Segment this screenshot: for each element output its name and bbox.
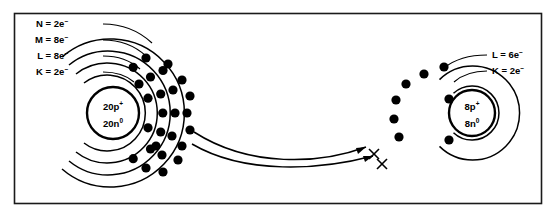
transfer-arrow-1-path	[192, 144, 373, 167]
electron-dot	[177, 141, 186, 150]
leader-line-K-right	[454, 71, 487, 82]
x-mark	[377, 159, 387, 169]
oxygen-nucleus: 8p+ 8n0	[449, 90, 495, 136]
calcium-atom: N = 2e– M = 8e– L = 8e– K = 2e– 20p+ 20n…	[35, 17, 195, 187]
calcium-leader-lines	[103, 24, 152, 82]
electron-dot	[156, 89, 165, 98]
oxygen-shell-labels: L = 6e– K = 2e–	[492, 48, 524, 76]
electron-dot	[134, 79, 143, 88]
electron-dot	[146, 72, 155, 81]
electron-dot	[173, 155, 182, 164]
electron-dot	[168, 85, 177, 94]
electron-dot	[389, 114, 398, 123]
transfer-arrow-2-head	[356, 147, 366, 154]
electron-dot	[129, 63, 138, 72]
electron-dot	[182, 108, 191, 117]
shell-label-N: N = 2e–	[36, 17, 68, 29]
oxygen-electrons-L	[389, 62, 448, 141]
electron-transfer-arrows	[192, 132, 373, 167]
electron-dot	[394, 132, 403, 141]
electron-dot	[439, 62, 448, 71]
oxygen-leader-lines	[444, 55, 487, 82]
electron-dot	[129, 154, 138, 163]
transfer-arrow-1	[192, 144, 373, 167]
calcium-shell-labels: N = 2e– M = 8e– L = 8e– K = 2e–	[35, 17, 68, 77]
x-mark	[369, 149, 379, 159]
transferred-electron-marks	[369, 149, 387, 169]
transfer-arrow-2-path	[194, 132, 366, 160]
oxygen-atom: L = 6e– K = 2e– 8p+ 8n0	[369, 48, 524, 169]
electron-dot	[143, 94, 152, 103]
electron-dot	[391, 95, 400, 104]
electron-dot	[158, 167, 167, 176]
electron-dot	[141, 53, 150, 62]
electron-dot	[444, 135, 453, 144]
electron-dot	[444, 94, 453, 103]
shell-label-L-right: L = 6e–	[492, 48, 523, 60]
electron-dot	[419, 69, 428, 78]
electron-dot	[158, 108, 167, 117]
electron-dot	[185, 125, 194, 134]
transfer-arrow-2	[194, 132, 366, 160]
electron-dot	[141, 163, 150, 172]
shell-label-K: K = 2e–	[36, 65, 68, 77]
electron-dot	[151, 141, 160, 150]
electron-dot	[401, 79, 410, 88]
diagram-canvas: N = 2e– M = 8e– L = 8e– K = 2e– 20p+ 20n…	[0, 0, 555, 216]
electron-dot	[177, 75, 186, 84]
calcium-nucleus: 20p+ 20n0	[87, 87, 139, 139]
electron-dot	[185, 91, 194, 100]
electron-dot	[167, 131, 176, 140]
shell-label-K-right: K = 2e–	[492, 64, 524, 76]
electron-dot	[156, 127, 165, 136]
electron-dot	[157, 150, 166, 159]
shell-label-L: L = 8e–	[37, 49, 68, 61]
electron-dot	[143, 123, 152, 132]
shell-label-M: M = 8e–	[35, 33, 68, 45]
electron-dot	[170, 108, 179, 117]
electron-dot	[163, 59, 172, 68]
